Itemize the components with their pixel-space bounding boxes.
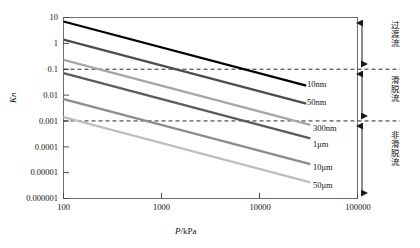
series-label-300nm: 300nm xyxy=(313,124,337,133)
x-tick-label-1000: 1000 xyxy=(141,203,182,212)
y-tick-label-0.0001: 0.0001 xyxy=(8,143,58,152)
regime-label-slip-flow: 滑脱流 xyxy=(389,76,398,103)
y-tick-label-0.000001: 0.000001 xyxy=(0,194,58,203)
series-label-10nm: 10nm xyxy=(307,80,326,89)
series-label-10um: 10μm xyxy=(313,163,333,172)
series-label-50nm: 50nm xyxy=(307,98,326,107)
y-tick-label-1: 1 xyxy=(8,39,58,48)
y-tick-label-0.1: 0.1 xyxy=(8,65,58,74)
regime-label-non-slip-flow: 非滑脱流 xyxy=(389,131,398,167)
x-tick-label-100000: 100000 xyxy=(333,203,383,212)
y-tick-label-0.001: 0.001 xyxy=(8,117,58,126)
x-tick-label-10000: 10000 xyxy=(237,203,283,212)
y-tick-label-0.00001: 0.00001 xyxy=(4,168,58,177)
series-label-50um: 50μm xyxy=(313,181,333,190)
x-axis-unit: kPa xyxy=(183,226,197,236)
series-label-1um: 1μm xyxy=(313,140,328,149)
regime-label-transition-flow: 过渡流 xyxy=(389,21,398,48)
x-tick-label-100: 100 xyxy=(43,203,84,212)
y-axis-title: Kn xyxy=(8,92,18,103)
knudsen-number-pressure-chart: 10 1 0.1 0.01 0.001 0.0001 0.00001 0.000… xyxy=(0,0,420,248)
x-axis-title: P/kPa xyxy=(175,226,197,236)
y-tick-label-10: 10 xyxy=(8,13,58,22)
